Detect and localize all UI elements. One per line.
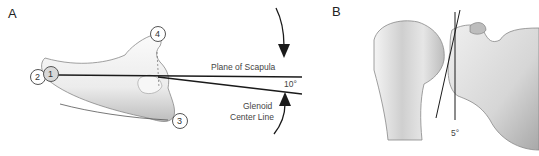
panel-a-label: A (8, 6, 17, 21)
landmark-4-label: 4 (155, 29, 160, 39)
glenoid-center-line (158, 77, 302, 94)
plane-of-scapula-label: Plane of Scapula (211, 62, 275, 72)
panel-b-label: B (332, 4, 341, 19)
landmark-1-label: 1 (48, 69, 53, 79)
glenoid-center-line-label-1: Glenoid (243, 101, 272, 111)
landmark-3-label: 3 (177, 116, 182, 126)
arrow-up-icon (274, 92, 291, 134)
arrow-down-icon (276, 8, 290, 58)
scapula-frontal-drawing (448, 23, 539, 150)
humerus-drawing (374, 21, 444, 140)
glenoid-center-line-label-2: Center Line (230, 112, 274, 122)
landmark-2-label: 2 (35, 72, 40, 82)
scapula-axial-drawing (42, 36, 175, 122)
angle-a-label: 10° (284, 79, 297, 89)
angle-b-label: 5° (451, 128, 459, 138)
